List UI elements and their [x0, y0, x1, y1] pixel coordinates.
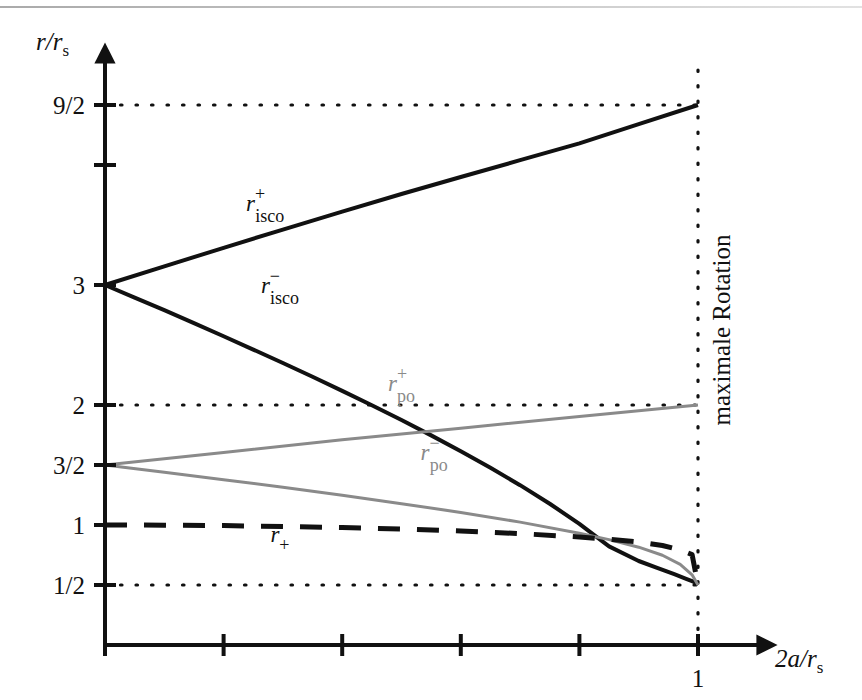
y-axis-title: r/rs	[36, 28, 69, 60]
kerr-radii-plot: 19/2323/211/2r/rs2a/rsr+iscor−iscor+por−…	[0, 0, 862, 700]
max-rotation-label: maximale Rotation	[708, 234, 735, 425]
curve-label-r-isco--: r−isco	[261, 266, 299, 308]
y-tick-label-4: 3/2	[53, 452, 85, 479]
y-tick-label-3: 2	[73, 392, 86, 419]
x-axis-title: 2a/rs	[775, 645, 823, 677]
y-tick-label-5: 1	[73, 512, 86, 539]
label-layer: 19/2323/211/2r/rs2a/rsr+iscor−iscor+por−…	[36, 28, 823, 692]
curve-r-isco-+	[105, 105, 698, 285]
figure-canvas: 19/2323/211/2r/rs2a/rsr+iscor−iscor+por−…	[0, 0, 862, 700]
curve-label-r-isco-+: r+isco	[246, 184, 284, 226]
curve-r-+	[105, 525, 698, 585]
curve-r-po-+	[105, 405, 698, 465]
x-tick-label-5: 1	[692, 665, 705, 692]
scan-artifact-line	[0, 6, 862, 8]
curve-label-r-po-+: r+po	[388, 364, 415, 406]
curve-layer	[105, 105, 698, 585]
y-tick-label-6: 1/2	[53, 572, 85, 599]
y-tick-label-0: 9/2	[53, 92, 85, 119]
grid-layer	[105, 70, 700, 645]
curve-label-r-po--: r−po	[421, 433, 448, 475]
y-tick-label-2: 3	[73, 272, 86, 299]
